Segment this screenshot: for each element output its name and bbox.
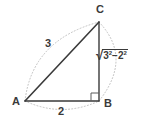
radical-sign-icon: √ (96, 49, 103, 62)
geometry-figure: A B C 3 2 √ 32−22 (0, 0, 143, 122)
side-length-label-base: 2 (58, 106, 64, 117)
vertex-label-a: A (12, 96, 20, 107)
side-length-label-hypotenuse: 3 (45, 38, 51, 49)
right-angle-marker-b (91, 93, 99, 101)
radicand-term-2-exponent: 2 (123, 50, 126, 56)
side-hypotenuse-ac (25, 22, 99, 101)
vertex-label-b: B (104, 98, 112, 109)
side-length-label-vertical: √ 32−22 (96, 49, 128, 62)
vertex-label-c: C (96, 4, 104, 15)
radicand-group: 32−22 (102, 49, 128, 62)
radical-expression: √ 32−22 (96, 49, 128, 62)
